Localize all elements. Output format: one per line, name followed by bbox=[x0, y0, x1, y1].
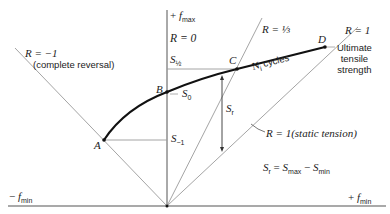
point-b-dot bbox=[165, 90, 169, 94]
sr-arrow-head-down bbox=[220, 147, 224, 152]
goodman-diagram: + fmax R = 0 S½ R = −1 (complete reversa… bbox=[0, 0, 390, 214]
s-r-label: Sr bbox=[226, 103, 234, 116]
point-d-label: D bbox=[318, 34, 326, 45]
vertical-axis-label: + fmax bbox=[170, 10, 195, 23]
stress-range-formula: Sr = Smax − Smin bbox=[263, 162, 330, 175]
point-c-label: C bbox=[229, 55, 236, 66]
s-zero-label: S0 bbox=[182, 88, 191, 101]
ray-r-third bbox=[167, 18, 262, 206]
point-c-dot bbox=[235, 67, 239, 71]
r-one-label: R = 1 bbox=[345, 25, 370, 36]
ray-r-minus-one bbox=[15, 48, 167, 206]
point-a-label: A bbox=[94, 140, 101, 151]
point-d-dot bbox=[323, 45, 327, 49]
complete-reversal-note: (complete reversal) bbox=[33, 60, 114, 70]
point-a-dot bbox=[102, 138, 106, 142]
s-half-label: S½ bbox=[170, 54, 181, 67]
ray-r-one bbox=[167, 27, 358, 206]
sr-arrow-head-up bbox=[220, 75, 224, 80]
r-one-static-tension-label: R = 1(static tension) bbox=[266, 128, 357, 139]
ultimate-tensile-strength-label: Ultimate tensile strength bbox=[337, 42, 372, 75]
origin-dot bbox=[166, 205, 169, 208]
r-zero-label: R = 0 bbox=[170, 33, 196, 45]
r-minus-one-label: R = −1 bbox=[25, 48, 58, 59]
positive-f-min-label: + fmin bbox=[348, 192, 371, 205]
s-minus-one-label: S−1 bbox=[171, 133, 184, 146]
point-b-label: B bbox=[156, 84, 163, 95]
negative-f-min-label: − fmin bbox=[9, 191, 32, 204]
r-third-label: R = ⅓ bbox=[262, 24, 290, 35]
